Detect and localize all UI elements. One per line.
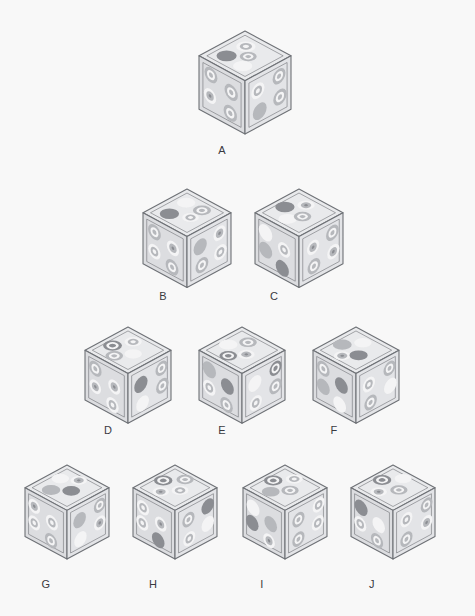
- cube-label-i: I: [242, 578, 282, 590]
- cube-svg-j: [348, 462, 438, 564]
- cube-svg-e: [196, 324, 288, 428]
- cube-a: A: [196, 28, 294, 139]
- cube-label-g: G: [26, 578, 66, 590]
- cube-label-j: J: [352, 578, 392, 590]
- cube-f: F: [310, 324, 402, 428]
- cube-svg-b: [140, 186, 234, 293]
- cube-puzzle-figure: ABCDEFGHIJ: [0, 0, 475, 616]
- cube-svg-i: [240, 462, 330, 564]
- cube-e: E: [196, 324, 288, 428]
- cube-label-f: F: [314, 424, 354, 436]
- cube-h: H: [130, 462, 220, 564]
- cube-label-h: H: [133, 578, 173, 590]
- cube-svg-a: [196, 28, 294, 139]
- cube-label-e: E: [202, 424, 242, 436]
- cube-svg-c: [252, 186, 346, 293]
- cube-i: I: [240, 462, 330, 564]
- cube-svg-h: [130, 462, 220, 564]
- cube-c: C: [252, 186, 346, 293]
- cube-svg-d: [82, 324, 174, 428]
- cube-svg-g: [22, 462, 112, 564]
- cube-b: B: [140, 186, 234, 293]
- cube-label-a: A: [202, 144, 242, 156]
- cube-d: D: [82, 324, 174, 428]
- cube-g: G: [22, 462, 112, 564]
- cube-label-c: C: [254, 290, 294, 302]
- cube-svg-f: [310, 324, 402, 428]
- cube-j: J: [348, 462, 438, 564]
- cube-label-d: D: [88, 424, 128, 436]
- cube-label-b: B: [143, 290, 183, 302]
